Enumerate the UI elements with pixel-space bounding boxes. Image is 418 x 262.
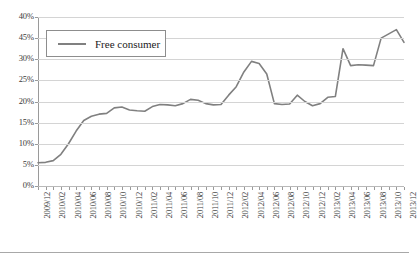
x-axis-tick-label: 2013/04 <box>347 192 357 218</box>
gridline <box>38 165 404 166</box>
x-axis-tick-mark <box>396 187 397 190</box>
y-axis-tick-mark <box>35 17 38 18</box>
x-axis-tick-label: 2013/08 <box>378 192 388 218</box>
y-axis-tick-mark <box>35 144 38 145</box>
y-axis-tick-label: 20% <box>0 97 34 106</box>
x-axis-tick-label: 2012/12 <box>317 192 327 218</box>
y-axis-tick-label: 15% <box>0 118 34 127</box>
gridline <box>38 102 404 103</box>
x-axis: 2009/122010/022010/042010/062010/082010/… <box>38 187 404 257</box>
x-axis-tick-mark <box>297 187 298 190</box>
x-axis-tick-label: 2011/02 <box>149 192 159 218</box>
x-axis-tick-mark <box>114 187 115 190</box>
gridline <box>38 17 404 18</box>
x-axis-tick-label: 2010/08 <box>103 192 113 218</box>
x-axis-tick-mark <box>366 187 367 190</box>
y-axis-tick-label: 10% <box>0 139 34 148</box>
x-axis-tick-label: 2013/02 <box>332 192 342 218</box>
y-axis-tick-mark <box>35 123 38 124</box>
x-axis-tick-mark <box>290 187 291 190</box>
x-axis-tick-label: 2012/02 <box>240 192 250 218</box>
y-axis: 40%45%30%25%20%15%10%5%0% <box>0 0 34 262</box>
x-axis-tick-label: 2012/10 <box>301 192 311 218</box>
x-axis-tick-label: 2011/08 <box>195 192 205 218</box>
x-axis-tick-mark <box>130 187 131 190</box>
x-axis-tick-mark <box>38 187 39 190</box>
x-axis-tick-mark <box>152 187 153 190</box>
y-axis-tick-label: 25% <box>0 75 34 84</box>
y-axis-tick-label: 45% <box>0 33 34 42</box>
x-axis-tick-mark <box>175 187 176 190</box>
bottom-divider <box>0 252 409 253</box>
gridline <box>38 123 404 124</box>
y-axis-tick-mark <box>35 102 38 103</box>
x-axis-tick-mark <box>99 187 100 190</box>
chart-legend: Free consumer <box>46 30 166 57</box>
y-axis-tick-mark <box>35 186 38 187</box>
gridline <box>38 80 404 81</box>
x-axis-tick-mark <box>374 187 375 190</box>
x-axis-tick-mark <box>389 187 390 190</box>
x-axis-tick-mark <box>53 187 54 190</box>
x-axis-tick-mark <box>122 187 123 190</box>
y-axis-tick-mark <box>35 38 38 39</box>
x-axis-tick-mark <box>343 187 344 190</box>
x-axis-tick-mark <box>236 187 237 190</box>
x-axis-tick-label: 2011/04 <box>164 192 174 218</box>
x-axis-tick-mark <box>137 187 138 190</box>
x-axis-tick-mark <box>145 187 146 190</box>
x-axis-tick-mark <box>183 187 184 190</box>
x-axis-tick-mark <box>259 187 260 190</box>
x-axis-tick-mark <box>91 187 92 190</box>
x-axis-tick-mark <box>404 187 405 190</box>
x-axis-tick-mark <box>84 187 85 190</box>
x-axis-tick-mark <box>213 187 214 190</box>
x-axis-tick-mark <box>221 187 222 190</box>
x-axis-tick-mark <box>107 187 108 190</box>
gridline <box>38 59 404 60</box>
x-axis-tick-mark <box>191 187 192 190</box>
x-axis-tick-mark <box>351 187 352 190</box>
x-axis-tick-mark <box>160 187 161 190</box>
x-axis-tick-label: 2010/04 <box>73 192 83 218</box>
legend-label: Free consumer <box>95 38 160 50</box>
x-axis-tick-label: 2012/06 <box>271 192 281 218</box>
y-axis-tick-mark <box>35 80 38 81</box>
x-axis-tick-mark <box>328 187 329 190</box>
x-axis-tick-label: 2011/06 <box>179 192 189 218</box>
x-axis-tick-mark <box>244 187 245 190</box>
x-axis-tick-label: 2012/08 <box>286 192 296 218</box>
x-axis-tick-mark <box>305 187 306 190</box>
x-axis-tick-mark <box>320 187 321 190</box>
x-axis-tick-label: 2010/12 <box>134 192 144 218</box>
gridline <box>38 144 404 145</box>
x-axis-tick-label: 2010/02 <box>57 192 67 218</box>
y-axis-tick-label: 0% <box>0 181 34 190</box>
x-axis-tick-mark <box>69 187 70 190</box>
x-axis-tick-mark <box>313 187 314 190</box>
y-axis-tick-label: 30% <box>0 54 34 63</box>
y-axis-tick-label: 5% <box>0 160 34 169</box>
x-axis-tick-mark <box>381 187 382 190</box>
x-axis-tick-mark <box>46 187 47 190</box>
x-axis-tick-label: 2010/10 <box>118 192 128 218</box>
y-axis-tick-mark <box>35 59 38 60</box>
x-axis-tick-mark <box>358 187 359 190</box>
x-axis-tick-mark <box>274 187 275 190</box>
legend-line-swatch <box>58 43 86 45</box>
x-axis-tick-mark <box>206 187 207 190</box>
x-axis-tick-label: 2012/04 <box>256 192 266 218</box>
x-axis-tick-mark <box>229 187 230 190</box>
y-axis-tick-label: 40% <box>0 12 34 21</box>
x-axis-tick-label: 2013/12 <box>408 192 418 218</box>
x-axis-tick-label: 2011/10 <box>210 192 220 218</box>
y-axis-tick-mark <box>35 165 38 166</box>
x-axis-tick-mark <box>168 187 169 190</box>
x-axis-tick-label: 2013/06 <box>362 192 372 218</box>
x-axis-tick-label: 2009/12 <box>42 192 52 218</box>
x-axis-tick-label: 2011/12 <box>225 192 235 218</box>
x-axis-tick-mark <box>267 187 268 190</box>
x-axis-tick-mark <box>61 187 62 190</box>
x-axis-tick-mark <box>335 187 336 190</box>
